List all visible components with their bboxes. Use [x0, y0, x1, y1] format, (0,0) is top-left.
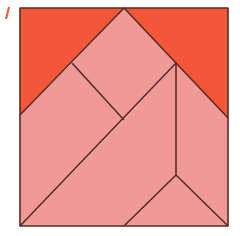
tangram-figure — [0, 0, 240, 236]
corner-mark-icon — [4, 6, 10, 20]
tangram-svg — [0, 0, 240, 236]
